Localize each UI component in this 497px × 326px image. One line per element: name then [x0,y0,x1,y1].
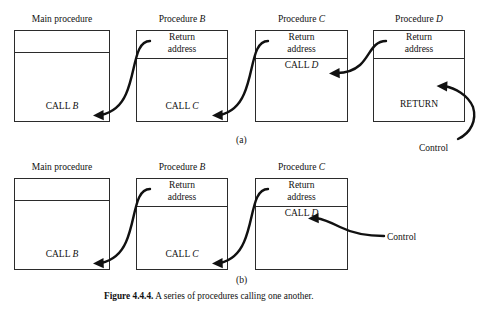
arrow-layer [0,0,497,326]
figure-number: Figure 4.4.4. [104,291,153,301]
figure-canvas: Main procedure CALL B Procedure B Return… [0,0,497,326]
arrow-control-to-d-a [437,81,475,139]
arrow-d-to-c-a [329,41,386,78]
figure-caption: Figure 4.4.4. A series of procedures cal… [104,290,404,303]
arrow-c-to-b-a [212,41,268,120]
arrow-b-to-main-a [93,41,150,120]
arrow-c-to-b-b [212,189,268,268]
arrow-control-to-c-b [308,213,384,236]
arrow-b-to-main-b [93,189,150,268]
figure-caption-text: A series of procedures calling one anoth… [153,291,313,301]
